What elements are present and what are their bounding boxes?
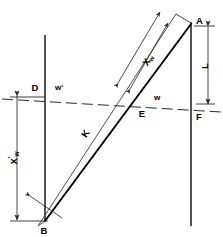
label-segment-k-group: K [79, 127, 92, 139]
label-point-e: E [139, 108, 145, 119]
label-point-f: F [196, 111, 202, 122]
label-point-a: A [196, 15, 203, 26]
label-dimension-xw: Xw [139, 51, 156, 68]
diagram-canvas: A B D E F w' w K L Xw X'w [0, 0, 223, 237]
label-dimension-xw-prime-sub: w [12, 151, 19, 158]
label-segment-l: L [199, 63, 210, 69]
geometric-diagram-figure: A B D E F w' w K L Xw X'w [0, 0, 223, 237]
label-dimension-xw-prime: X'w [7, 151, 20, 165]
dashed-reference-line [2, 99, 221, 112]
label-segment-l-group: L [199, 63, 210, 69]
label-angle-w-prime: w' [54, 83, 63, 92]
label-point-b: B [41, 225, 48, 236]
label-segment-k: K [79, 127, 92, 139]
label-dimension-xw-prime-group: X'w [7, 151, 20, 165]
main-diagonal-BA [45, 24, 191, 221]
top-connector-line [176, 14, 191, 23]
dimension-arrow-near-b [30, 196, 62, 218]
label-dimension-xw-group: Xw [139, 51, 156, 68]
label-point-d: D [32, 82, 39, 93]
label-angle-w: w [153, 93, 161, 102]
